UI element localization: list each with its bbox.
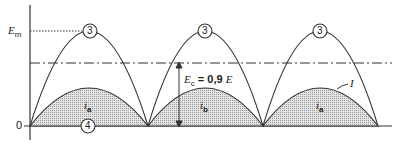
current-label-a1: ia [84,99,92,114]
zero-label: 0 [16,119,22,131]
current-label-a2: ia [316,99,324,114]
threshold-label: Ec = 0,9 E [184,73,232,88]
current-label-b: ib [200,99,208,114]
em-label: Em [8,24,21,39]
baseline-marker-label: 4 [85,120,91,131]
curve-label-I: I [350,77,354,89]
curve-label-leader [337,84,348,89]
